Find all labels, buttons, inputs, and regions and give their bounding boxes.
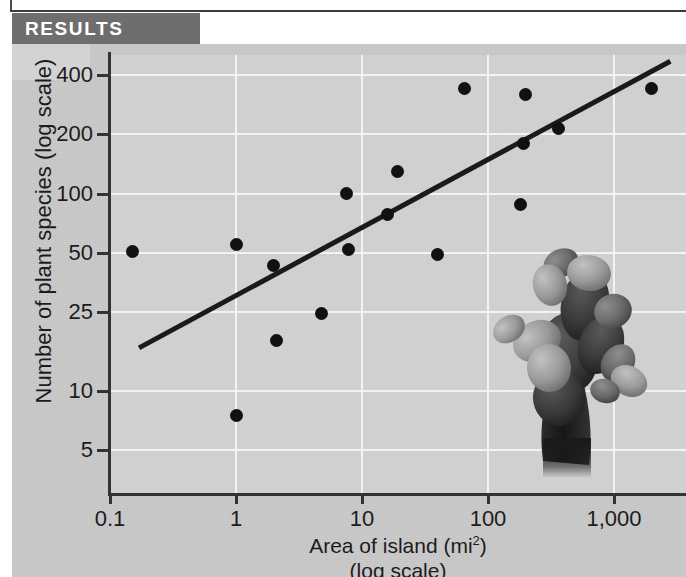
cactus-pad-lower-dark	[529, 366, 590, 430]
results-figure: RESULTS	[0, 0, 686, 577]
data-point	[230, 409, 243, 422]
x-axis-tick	[235, 493, 238, 504]
cactus-pad-light-top	[565, 252, 614, 294]
y-axis-tick	[97, 252, 109, 255]
data-point	[552, 122, 565, 135]
top-horizontal-rule	[10, 10, 686, 12]
results-banner-label: RESULTS	[12, 18, 123, 40]
x-axis-tick-label: 100	[470, 506, 507, 532]
data-point	[270, 334, 283, 347]
gridline-vertical	[487, 55, 489, 493]
cactus-trunk	[541, 381, 590, 465]
x-axis-tick-label: 0.1	[95, 506, 126, 532]
x-axis-tick-label: 1,000	[586, 506, 641, 532]
x-axis-tick	[361, 493, 364, 504]
y-axis-tick	[97, 311, 109, 314]
cactus-pad-center-dark	[536, 311, 601, 395]
plot-area	[110, 55, 686, 493]
data-point	[458, 82, 471, 95]
gridline-vertical	[613, 55, 615, 493]
cactus-pad-light-lower-left	[525, 342, 574, 394]
data-point	[315, 307, 328, 320]
data-point	[230, 238, 243, 251]
data-point	[342, 243, 355, 256]
data-point	[267, 259, 280, 272]
y-axis-line	[108, 52, 111, 496]
gridline-horizontal	[110, 193, 686, 195]
cactus-base-fade	[543, 438, 591, 478]
data-point	[645, 82, 658, 95]
gridline-horizontal	[110, 449, 686, 451]
y-axis-tick	[97, 133, 109, 136]
data-point	[514, 198, 527, 211]
y-axis-tick	[97, 193, 109, 196]
x-axis-title: Area of island (mi2) (log scale)	[110, 533, 686, 577]
gridline-horizontal	[110, 252, 686, 254]
cactus-pad-light-upper-left	[528, 261, 571, 310]
x-axis-title-line1: Area of island (mi2)	[309, 534, 487, 557]
x-axis-tick-label: 10	[350, 506, 374, 532]
gridline-vertical	[235, 55, 237, 493]
y-axis-title: Number of plant species (log scale)	[31, 11, 57, 451]
x-axis-tick	[613, 493, 616, 504]
trendline-svg	[110, 55, 686, 493]
gridline-vertical	[361, 55, 363, 493]
x-axis-title-line2: (log scale)	[350, 559, 447, 577]
plot-grain-texture	[110, 55, 686, 493]
x-axis-tick	[109, 493, 112, 504]
data-point	[381, 208, 394, 221]
x-axis-line	[108, 493, 686, 496]
data-point	[517, 137, 530, 150]
gridline-horizontal	[110, 311, 686, 313]
prickly-pear-cactus-illustration	[493, 233, 653, 478]
cactus-pad-mid-lower-right	[594, 337, 643, 388]
data-point	[126, 245, 139, 258]
gridline-horizontal	[110, 390, 686, 392]
x-axis-tick	[487, 493, 490, 504]
x-axis-tick-label: 1	[230, 506, 242, 532]
cactus-pad-right-dark	[569, 309, 632, 381]
y-axis-tick	[97, 449, 109, 452]
data-point	[519, 88, 532, 101]
x-axis-title-exponent: 2	[473, 533, 480, 548]
cactus-pad-light-far-left	[493, 309, 530, 350]
cactus-pad-upper-dark	[555, 265, 615, 344]
cactus-pad-light-left	[506, 312, 569, 371]
trendline	[139, 61, 670, 348]
cactus-pad-mid-top	[539, 243, 583, 283]
y-axis-tick	[97, 390, 109, 393]
gridline-horizontal	[110, 74, 686, 76]
gridline-horizontal	[110, 133, 686, 135]
data-point	[391, 165, 404, 178]
y-axis-tick	[97, 74, 109, 77]
data-point	[340, 187, 353, 200]
data-point	[431, 248, 444, 261]
